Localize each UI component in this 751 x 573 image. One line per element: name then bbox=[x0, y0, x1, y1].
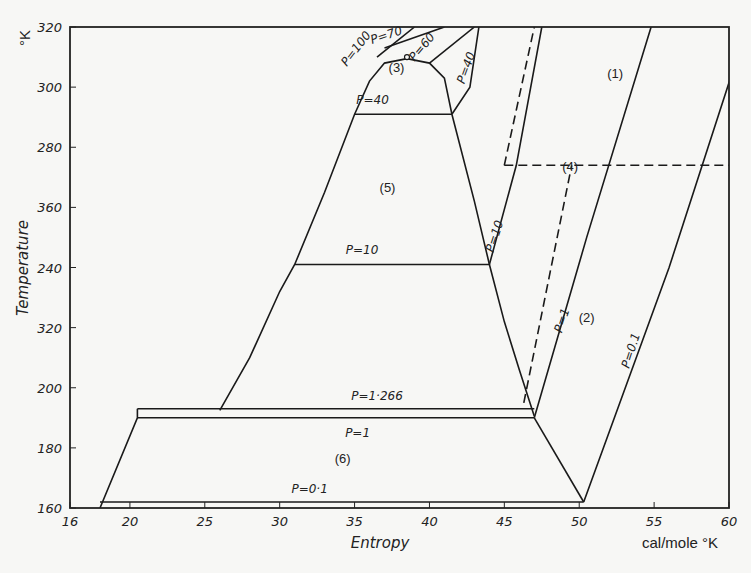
series-line-saturation-dome-left bbox=[220, 59, 407, 411]
pressure-label: P=0·1 bbox=[291, 482, 327, 496]
x-tick-label: 30 bbox=[271, 514, 288, 529]
x-tick-label: 35 bbox=[346, 514, 363, 529]
x-tick-label: 60 bbox=[721, 514, 738, 529]
y-tick-label: 360 bbox=[37, 200, 62, 215]
y-tick-label: 240 bbox=[37, 261, 62, 276]
y-tick-label: 300 bbox=[37, 80, 62, 95]
pressure-label: P=10 bbox=[483, 218, 506, 254]
pressure-label: P=1 bbox=[551, 306, 572, 334]
region-label: (5) bbox=[380, 180, 396, 195]
y-tick-label: 320 bbox=[37, 20, 62, 35]
series-line-dashed-lower bbox=[524, 165, 572, 402]
y-tick-label: 280 bbox=[37, 140, 62, 155]
y-tick-label: 320 bbox=[37, 321, 62, 336]
region-label: (4) bbox=[562, 159, 578, 174]
x-tick-label: 55 bbox=[646, 514, 663, 529]
pressure-label: P=40 bbox=[356, 93, 389, 107]
series-line-saturation-dome-right bbox=[407, 59, 534, 417]
x-tick-label: 50 bbox=[571, 514, 588, 529]
region-label: (2) bbox=[579, 310, 595, 325]
series-line-solid-left-boundary bbox=[100, 409, 137, 508]
x-axis-unit: cal/mole °K bbox=[642, 534, 718, 551]
region-label: (6) bbox=[335, 451, 351, 466]
y-axis-title: Temperature bbox=[14, 220, 32, 316]
x-tick-label: 40 bbox=[421, 514, 438, 529]
region-label: (3) bbox=[389, 60, 405, 75]
x-tick-label: 25 bbox=[197, 514, 214, 529]
x-axis: 16202530354045505560 bbox=[62, 502, 738, 529]
series-line-bottom-right-boundary bbox=[534, 418, 583, 502]
y-axis-unit: °K bbox=[16, 30, 33, 46]
annotations: P=100P=70P=60P=40(3)P=40(5)P=10P=10(1)(4… bbox=[291, 23, 643, 496]
series-line-p-0-1-gas bbox=[584, 27, 747, 502]
x-tick-label: 16 bbox=[62, 514, 79, 529]
series-layer bbox=[100, 27, 747, 508]
plot-frame bbox=[70, 27, 729, 508]
y-tick-label: 160 bbox=[37, 501, 62, 516]
x-tick-label: 45 bbox=[496, 514, 513, 529]
region-label: (1) bbox=[607, 66, 623, 81]
pressure-label: P=1 bbox=[345, 426, 370, 440]
x-tick-label: 20 bbox=[122, 514, 139, 529]
x-axis-title: Entropy bbox=[351, 534, 411, 552]
pressure-label: P=1·266 bbox=[351, 389, 403, 403]
ts-diagram-chart: 16202530354045505560 1601802003202403602… bbox=[0, 0, 751, 573]
pressure-label: P=60 bbox=[406, 30, 438, 64]
pressure-label: P=10 bbox=[346, 243, 379, 257]
pressure-label: P=40 bbox=[454, 50, 478, 86]
y-tick-label: 200 bbox=[37, 381, 62, 396]
y-tick-label: 180 bbox=[37, 441, 62, 456]
